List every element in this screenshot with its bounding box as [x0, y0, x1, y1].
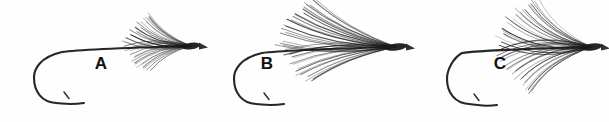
fly-label-c: C: [494, 54, 506, 73]
fly-label-b: B: [261, 54, 273, 73]
fly-illustration-svg: ABC: [0, 0, 609, 122]
background: [0, 0, 609, 122]
figure-canvas: ABC: [0, 0, 609, 122]
fly-label-a: A: [95, 54, 107, 73]
